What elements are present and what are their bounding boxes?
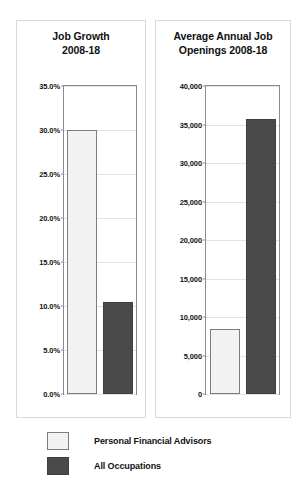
y-axis-tick-mark <box>61 130 64 131</box>
y-axis-tick-label: 20,000 <box>180 236 202 245</box>
bar-all-occupations <box>246 119 276 394</box>
y-axis-tick-mark <box>203 240 206 241</box>
y-axis-tick-label: 25,000 <box>180 197 202 206</box>
y-axis-tick-mark <box>61 394 64 395</box>
legend-item-personal-financial-advisors: Personal Financial Advisors <box>47 428 287 453</box>
legend-label: Personal Financial Advisors <box>94 436 212 446</box>
y-axis-tick-mark <box>61 350 64 351</box>
chart-panel-job-growth: Job Growth 2008-18 0.0%5.0%10.0%15.0%20.… <box>16 20 146 418</box>
bar-all-occupations <box>103 302 133 394</box>
chart-title-job-growth: Job Growth 2008-18 <box>17 30 145 57</box>
y-axis-tick-mark <box>61 218 64 219</box>
y-axis-tick-label: 10.0% <box>39 302 60 311</box>
y-axis-tick-label: 25.0% <box>39 170 60 179</box>
chart-title-line-1: Average Annual Job <box>156 30 290 44</box>
plot-area-job-growth: 0.0%5.0%10.0%15.0%20.0%25.0%30.0%35.0% <box>63 85 137 395</box>
y-axis-tick-mark <box>203 124 206 125</box>
y-axis-tick-mark <box>203 394 206 395</box>
y-axis-tick-label: 30,000 <box>180 159 202 168</box>
gridline <box>64 86 136 87</box>
chart-title-job-openings: Average Annual Job Openings 2008-18 <box>156 30 290 57</box>
y-axis-tick-mark <box>61 262 64 263</box>
y-axis-tick-label: 10,000 <box>180 313 202 322</box>
y-axis-tick-mark <box>203 163 206 164</box>
chart-title-line-1: Job Growth <box>17 30 145 44</box>
y-axis-tick-label: 5.0% <box>43 346 60 355</box>
gridline <box>206 86 279 87</box>
y-axis-tick-label: 5,000 <box>184 351 202 360</box>
gridline <box>64 394 136 395</box>
legend-label: All Occupations <box>94 461 161 471</box>
bar-personal-financial-advisors <box>210 329 240 394</box>
y-axis-tick-label: 40,000 <box>180 82 202 91</box>
charts-container: Job Growth 2008-18 0.0%5.0%10.0%15.0%20.… <box>0 0 304 425</box>
y-axis-tick-label: 35,000 <box>180 120 202 129</box>
chart-title-line-2: 2008-18 <box>17 44 145 58</box>
y-axis-tick-label: 30.0% <box>39 126 60 135</box>
legend-swatch-light <box>47 432 69 450</box>
y-axis-tick-mark <box>203 355 206 356</box>
chart-panel-job-openings: Average Annual Job Openings 2008-18 05,0… <box>155 20 291 418</box>
plot-area-job-openings: 05,00010,00015,00020,00025,00030,00035,0… <box>205 85 280 395</box>
legend: Personal Financial Advisors All Occupati… <box>47 428 287 478</box>
y-axis-tick-mark <box>203 317 206 318</box>
y-axis-tick-label: 15,000 <box>180 274 202 283</box>
gridline <box>206 394 279 395</box>
y-axis-tick-label: 0 <box>198 390 202 399</box>
y-axis-tick-mark <box>61 306 64 307</box>
legend-item-all-occupations: All Occupations <box>47 453 287 478</box>
y-axis-tick-label: 35.0% <box>39 82 60 91</box>
y-axis-tick-mark <box>203 86 206 87</box>
bar-personal-financial-advisors <box>67 130 97 394</box>
legend-swatch-dark <box>47 457 69 475</box>
y-axis-tick-label: 0.0% <box>43 390 60 399</box>
y-axis-tick-mark <box>203 201 206 202</box>
y-axis-tick-mark <box>61 86 64 87</box>
y-axis-tick-mark <box>203 278 206 279</box>
y-axis-tick-label: 20.0% <box>39 214 60 223</box>
chart-title-line-2: Openings 2008-18 <box>156 44 290 58</box>
y-axis-tick-label: 15.0% <box>39 258 60 267</box>
y-axis-tick-mark <box>61 174 64 175</box>
